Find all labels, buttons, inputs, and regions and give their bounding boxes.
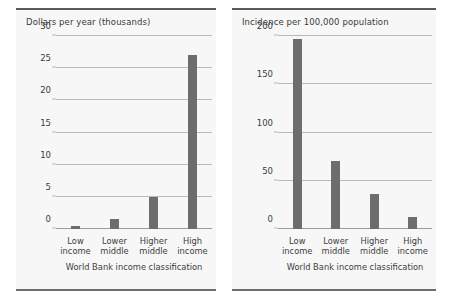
category-label: Highincome: [173, 236, 212, 256]
bar-slot: [95, 36, 134, 229]
plot-area: 050100150200 LowincomeLowermiddleHigherm…: [278, 36, 432, 229]
bars-layer: [278, 36, 432, 229]
y-tick-label: 25: [40, 53, 51, 63]
bar: [293, 39, 302, 229]
y-tick-label: 15: [40, 118, 51, 128]
y-tick-label: 50: [262, 166, 273, 176]
bar-slot: [317, 36, 356, 229]
y-tick-label: 30: [40, 21, 51, 31]
y-tick-label: 0: [46, 214, 51, 224]
panel-top-rule: [16, 8, 216, 10]
category-label: Lowincome: [278, 236, 317, 256]
category-label: Highermiddle: [134, 236, 173, 256]
category-label: Lowermiddle: [95, 236, 134, 256]
bar-slot: [134, 36, 173, 229]
bar: [408, 217, 417, 229]
bar: [370, 194, 379, 229]
panel-bottom-rule: [232, 289, 436, 291]
bar: [331, 161, 340, 229]
bar-slot: [56, 36, 95, 229]
panel-bottom-rule: [16, 289, 216, 291]
category-label: Highermiddle: [355, 236, 394, 256]
plot-area: 051015202530 LowincomeLowermiddleHigherm…: [56, 36, 212, 229]
bar-slot: [394, 36, 433, 229]
y-tick-label: 0: [268, 214, 273, 224]
x-axis-caption: World Bank income classification: [56, 262, 212, 272]
y-tick-label: 20: [40, 85, 51, 95]
bar: [110, 219, 119, 229]
category-label: Lowincome: [56, 236, 95, 256]
category-labels: LowincomeLowermiddleHighermiddleHighinco…: [278, 236, 432, 256]
panel-top-rule: [232, 8, 436, 10]
bar-slot: [173, 36, 212, 229]
figure: Dollars per year (thousands) 05101520253…: [0, 0, 450, 305]
category-label: Lowermiddle: [317, 236, 356, 256]
y-tick-label: 150: [257, 69, 273, 79]
bar: [71, 226, 80, 229]
y-tick-label: 200: [257, 21, 273, 31]
chart-panel-incidence-per-100000: Incidence per 100,000 population 0501001…: [232, 8, 436, 291]
bar-slot: [355, 36, 394, 229]
y-tick-label: 10: [40, 150, 51, 160]
bars-layer: [56, 36, 212, 229]
x-axis-caption: World Bank income classification: [278, 262, 432, 272]
bar-slot: [278, 36, 317, 229]
bar: [149, 197, 158, 229]
category-labels: LowincomeLowermiddleHighermiddleHighinco…: [56, 236, 212, 256]
y-tick-label: 100: [257, 118, 273, 128]
chart-panel-dollars-per-year: Dollars per year (thousands) 05101520253…: [16, 8, 216, 291]
bar: [188, 55, 197, 229]
category-label: Highincome: [394, 236, 433, 256]
y-tick-label: 5: [46, 182, 51, 192]
